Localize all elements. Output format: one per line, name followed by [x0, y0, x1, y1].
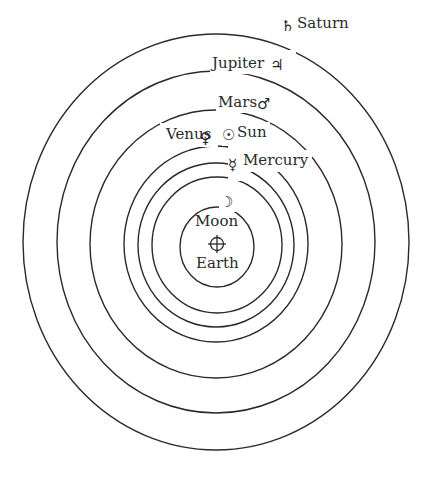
saturn-label: Saturn [297, 14, 349, 32]
moon-symbol-icon: ☽ [220, 193, 233, 211]
moon-label: Moon [195, 212, 238, 230]
mercury-label: Mercury [243, 151, 309, 169]
orbit-venus [138, 163, 294, 327]
orbit-jupiter [57, 71, 375, 413]
planet-moon: ☽ Moon [195, 193, 238, 230]
earth-label: Earth [196, 254, 239, 272]
mars-symbol-icon: ♂ [257, 95, 270, 113]
earth-symbol-icon [208, 235, 226, 253]
planet-sun: ☉ Sun [222, 123, 267, 144]
venus-symbol-icon: ♀ [200, 129, 211, 147]
planet-earth: Earth [196, 235, 239, 272]
planet-jupiter: Jupiter ♃ [210, 54, 283, 74]
jupiter-symbol-icon: ♃ [270, 56, 283, 74]
planet-saturn: ♄ Saturn [281, 14, 349, 35]
mercury-symbol-icon: ☿ [228, 156, 237, 174]
sun-label: Sun [237, 123, 267, 141]
sun-symbol-icon: ☉ [222, 126, 235, 144]
jupiter-label: Jupiter [210, 54, 265, 72]
planet-mars: Mars ♂ [218, 93, 270, 113]
geocentric-diagram: ♄ Saturn Jupiter ♃ Mars ♂ Venus ♀ ☉ Sun … [0, 0, 427, 482]
saturn-symbol-icon: ♄ [281, 17, 294, 35]
mars-label: Mars [218, 93, 257, 111]
